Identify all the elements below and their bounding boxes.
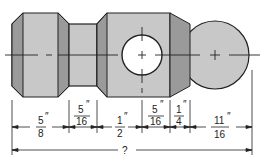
svg-text:1: 1 — [176, 104, 182, 115]
total-dimension-label: ? — [122, 145, 128, 156]
svg-text:″: ″ — [86, 99, 90, 110]
svg-text:″: ″ — [227, 111, 231, 122]
machine-part-drawing: 5 ″ 8 5 ″ 16 1 ″ 2 5 ″ 16 1 ″ 4 11 ″ 16 … — [0, 0, 268, 168]
svg-text:16: 16 — [214, 129, 226, 140]
svg-text:8: 8 — [38, 128, 44, 139]
total-dimension-line — [12, 149, 252, 152]
svg-text:16: 16 — [76, 116, 88, 127]
dimension-label-3: 1 ″ 2 — [115, 111, 128, 139]
dimension-label-4: 5 ″ 16 — [148, 99, 164, 127]
dimension-label-5: 1 ″ 4 — [174, 99, 187, 127]
svg-text:″: ″ — [183, 99, 187, 110]
svg-text:11: 11 — [214, 115, 225, 126]
svg-text:″: ″ — [124, 111, 128, 122]
dimension-label-6: 11 ″ 16 — [211, 111, 231, 140]
svg-text:4: 4 — [176, 116, 182, 127]
svg-text:5: 5 — [78, 104, 84, 115]
svg-text:16: 16 — [150, 116, 162, 127]
svg-text:1: 1 — [117, 115, 123, 126]
svg-text:″: ″ — [160, 99, 164, 110]
svg-text:5: 5 — [152, 104, 158, 115]
dimension-label-1: 5 ″ 8 — [36, 111, 49, 139]
svg-text:5: 5 — [38, 115, 44, 126]
svg-text:″: ″ — [45, 111, 49, 122]
dimension-label-2: 5 ″ 16 — [74, 99, 90, 127]
svg-text:2: 2 — [117, 128, 123, 139]
